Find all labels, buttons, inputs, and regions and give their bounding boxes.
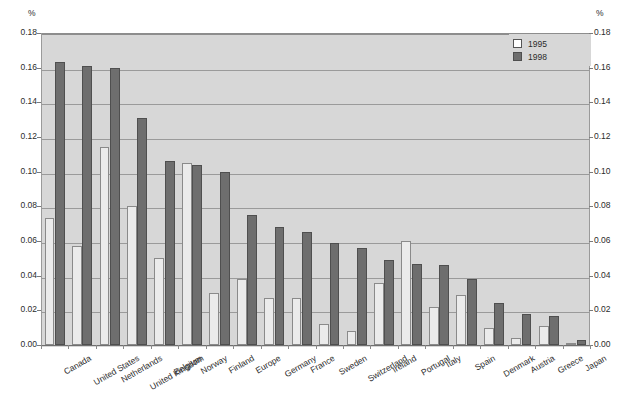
x-axis-label-spain: Spain: [473, 353, 497, 373]
y-axis-tick-right: 0.00: [594, 340, 611, 349]
y-axis-tick-left: 0.12: [20, 132, 37, 141]
y-axis-tick-left: 0.04: [20, 271, 37, 280]
x-axis-label-sweden: Sweden: [337, 353, 369, 377]
legend-swatch-1995: [513, 39, 522, 48]
bar-chart: % % 0.180.180.160.160.140.140.120.120.10…: [0, 0, 625, 413]
legend-item-1998: 1998: [513, 50, 587, 63]
bar-1998-austria: [522, 314, 532, 345]
bar-1995-portugal: [401, 241, 411, 345]
bar-1995-germany: [264, 298, 274, 345]
bar-1998-germany: [275, 227, 285, 345]
y-axis-tick-right: 0.02: [594, 305, 611, 314]
bars-layer: [41, 33, 590, 345]
bar-1995-europe: [237, 279, 247, 345]
y-axis-tick-left: 0.14: [20, 97, 37, 106]
bar-1995-denmark: [484, 328, 494, 345]
bar-1995-canada: [45, 218, 55, 345]
bar-1998-portugal: [412, 264, 422, 345]
bar-1995-belgium: [154, 258, 164, 345]
bar-1998-switzerland: [357, 248, 367, 345]
x-axis-label-canada: Canada: [62, 353, 93, 377]
y-axis-tick-right: 0.08: [594, 201, 611, 210]
bar-1998-norway: [192, 165, 202, 345]
bar-1995-france: [292, 298, 302, 345]
bar-1995-switzerland: [347, 331, 357, 345]
category-tick: [590, 345, 591, 349]
y-axis-tick-left: 0.08: [20, 201, 37, 210]
x-axis-label-norway: Norway: [199, 353, 229, 376]
bar-1998-italy: [439, 265, 449, 345]
x-axis-label-finland: Finland: [226, 353, 255, 376]
bar-1998-spain: [467, 279, 477, 345]
bar-1998-netherlands: [110, 68, 120, 345]
legend-swatch-1998: [513, 52, 522, 61]
bar-1995-united-kingdom: [127, 206, 137, 345]
y-axis-tick-right: 0.16: [594, 63, 611, 72]
y-axis-tick-right: 0.06: [594, 236, 611, 245]
bar-1998-ireland: [384, 260, 394, 345]
legend-item-1995: 1995: [513, 37, 587, 50]
bar-1995-austria: [511, 338, 521, 345]
bar-1995-ireland: [374, 283, 384, 345]
bar-1998-france: [302, 232, 312, 345]
bar-1998-belgium: [165, 161, 175, 345]
bar-1998-united-kingdom: [137, 118, 147, 345]
bar-1995-finland: [209, 293, 219, 345]
y-axis-tick-left: 0.10: [20, 167, 37, 176]
bar-1995-japan: [566, 343, 576, 345]
bar-1995-italy: [429, 307, 439, 345]
bar-1998-greece: [549, 316, 559, 345]
bar-1998-finland: [220, 172, 230, 345]
y-axis-tick-right: 0.14: [594, 97, 611, 106]
bar-1995-norway: [182, 163, 192, 345]
y-axis-tick-right: 0.18: [594, 28, 611, 37]
y-axis-tick-right: 0.12: [594, 132, 611, 141]
bar-1995-netherlands: [100, 147, 110, 345]
y-axis-tick-left: 0.06: [20, 236, 37, 245]
x-axis-labels: CanadaUnited StatesNetherlandsUnited Kin…: [41, 349, 590, 413]
x-axis-label-japan: Japan: [583, 353, 608, 373]
bar-1998-sweden: [330, 243, 340, 345]
y-axis-unit-left: %: [28, 8, 36, 18]
bar-1995-spain: [456, 295, 466, 345]
bar-1998-canada: [55, 62, 65, 345]
bar-1998-japan: [577, 340, 587, 345]
y-axis-tick-left: 0.02: [20, 305, 37, 314]
y-axis-tick-left: 0.00: [20, 340, 37, 349]
bar-1995-sweden: [319, 324, 329, 345]
y-axis-tick-right: 0.04: [594, 271, 611, 280]
bar-1995-greece: [539, 326, 549, 345]
y-axis-tick-left: 0.18: [20, 28, 37, 37]
bar-1998-united-states: [82, 66, 92, 345]
legend-label-1995: 1995: [528, 39, 547, 49]
bar-1995-united-states: [72, 246, 82, 345]
y-axis-unit-right: %: [596, 8, 604, 18]
y-axis-tick-right: 0.10: [594, 167, 611, 176]
y-axis-tick-left: 0.16: [20, 63, 37, 72]
bar-1998-denmark: [494, 303, 504, 345]
legend-label-1998: 1998: [528, 52, 547, 62]
bar-1998-europe: [247, 215, 257, 345]
x-axis-label-europe: Europe: [254, 353, 283, 375]
x-axis-label-greece: Greece: [556, 353, 585, 376]
legend: 19951998: [509, 34, 591, 66]
